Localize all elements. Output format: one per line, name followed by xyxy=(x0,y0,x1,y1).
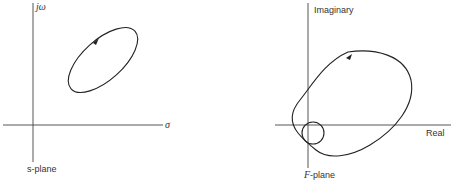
f-plane-direction-arrow-icon xyxy=(346,54,352,60)
s-plane-figure: jω σ s-plane xyxy=(3,1,171,174)
imaginary-axis-label: Imaginary xyxy=(314,5,354,15)
mapping-diagram: jω σ s-plane Imaginary Real F-plane xyxy=(0,0,451,186)
jw-axis-label: jω xyxy=(34,1,46,12)
f-plane-label: F-plane xyxy=(303,169,335,180)
real-axis-label: Real xyxy=(426,128,445,138)
f-plane-contour xyxy=(292,51,412,156)
f-plane-figure: Imaginary Real F-plane xyxy=(275,3,451,180)
s-plane-label: s-plane xyxy=(27,164,57,174)
sigma-axis-label: σ xyxy=(165,119,171,130)
s-plane-contour xyxy=(58,16,149,103)
